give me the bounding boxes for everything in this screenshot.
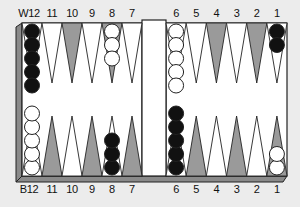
black-checker [25, 78, 40, 93]
black-checker [25, 24, 40, 39]
white-checker [269, 160, 284, 175]
white-checker [169, 38, 184, 53]
white-checker [169, 24, 184, 39]
white-checker [169, 51, 184, 66]
bar [142, 20, 166, 176]
black-checker [269, 38, 284, 53]
white-checker [105, 38, 120, 53]
left-board-half [22, 23, 142, 176]
white-checker [269, 147, 284, 162]
black-checker [105, 160, 120, 175]
black-checker [169, 120, 184, 135]
white-checker [169, 65, 184, 80]
black-checker [25, 51, 40, 66]
bottom-point-labels: B121110987654321 [0, 182, 300, 196]
black-checker [105, 147, 120, 162]
frame-left-bevel [16, 23, 22, 182]
white-checker [25, 120, 40, 135]
black-checker [25, 65, 40, 80]
white-checker [25, 133, 40, 148]
black-checker [169, 133, 184, 148]
black-checker [25, 38, 40, 53]
bottom-point-label: B12 [17, 182, 41, 196]
black-checker [169, 106, 184, 121]
black-checker [169, 147, 184, 162]
white-checker [105, 51, 120, 66]
black-checker [269, 24, 284, 39]
bottom-point-label: 1 [265, 182, 289, 196]
white-checker [25, 147, 40, 162]
white-checker [25, 106, 40, 121]
black-checker [169, 160, 184, 175]
bottom-point-label: 7 [120, 182, 144, 196]
backgammon-board [0, 0, 300, 207]
white-checker [169, 78, 184, 93]
black-checker [105, 133, 120, 148]
white-checker [105, 24, 120, 39]
white-checker [25, 160, 40, 175]
right-board-half [166, 23, 287, 176]
